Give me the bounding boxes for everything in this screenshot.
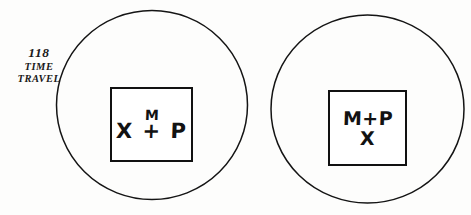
formula-bottom-right: X [359, 129, 376, 148]
formula-bottom-left: X + P [115, 121, 187, 142]
inner-square-left: M X + P [110, 87, 193, 162]
panel-left: M X + P [54, 7, 251, 203]
panel-right: M+P X [268, 12, 467, 208]
figure-root: 118 TIME TRAVEL M X + P M+P X [0, 0, 471, 215]
inner-square-right: M+P X [328, 90, 407, 166]
formula-top-right: M+P [342, 109, 393, 128]
